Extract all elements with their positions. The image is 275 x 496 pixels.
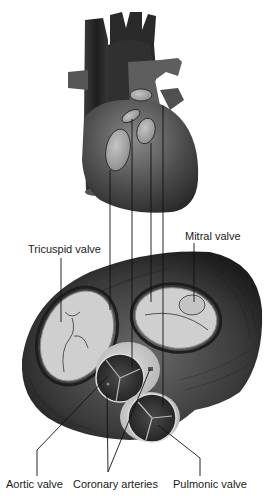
pulmonic-valve: [120, 392, 180, 442]
pulmonic-projection: [130, 89, 152, 101]
heart-anterior-view: [68, 12, 198, 213]
aortic-valve-label: Aortic valve: [6, 478, 63, 490]
coronary-arteries-label: Coronary arteries: [73, 478, 158, 490]
tricuspid-valve-label: Tricuspid valve: [28, 243, 101, 255]
heart-base-cross-section: [21, 251, 262, 442]
coronary-ostium: [148, 367, 153, 371]
mitral-valve-label: Mitral valve: [185, 230, 241, 242]
pulmonic-valve-label: Pulmonic valve: [173, 478, 247, 490]
coronary-ostium-2: [107, 383, 110, 386]
heart-body: [82, 99, 198, 212]
